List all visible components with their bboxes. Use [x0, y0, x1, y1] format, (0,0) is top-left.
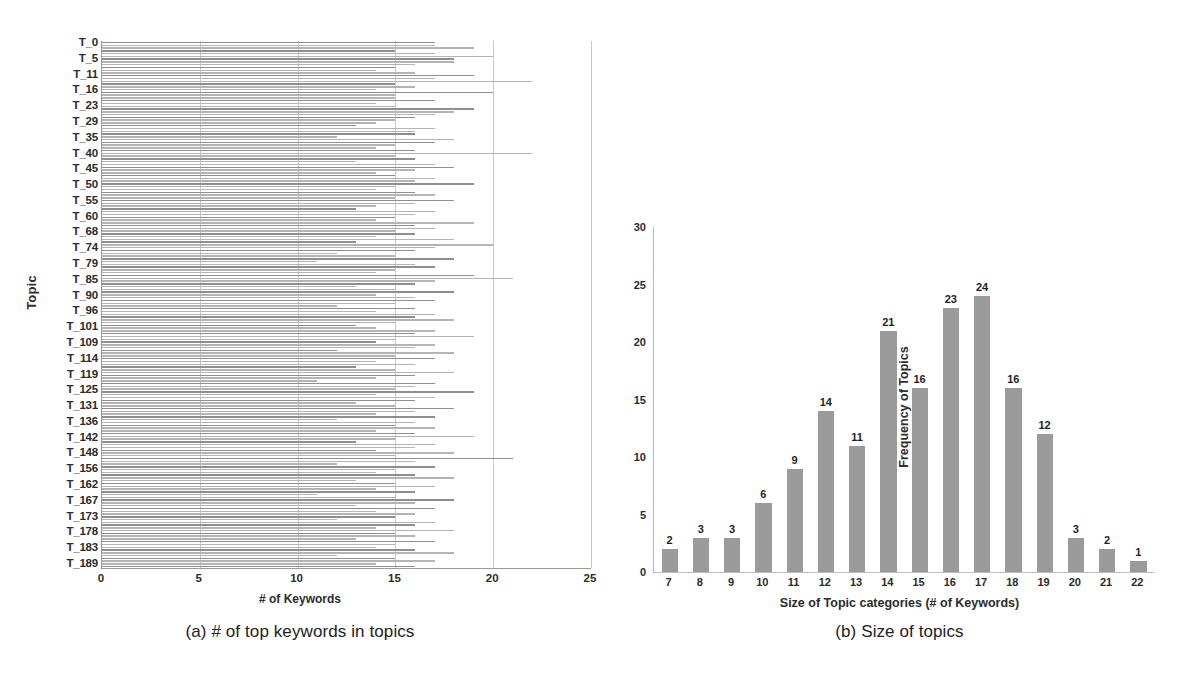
panel-b-y-tick-0: 0: [640, 566, 646, 578]
panel-a-bar: [102, 228, 435, 229]
panel-a-y-tick-t_90: T_90: [73, 290, 98, 300]
panel-a-y-tick-t_55: T_55: [73, 195, 98, 205]
panel-a-y-tick-t_136: T_136: [66, 416, 98, 426]
panel-a-bar: [102, 258, 454, 259]
panel-b-bar-value: 11: [837, 431, 877, 443]
panel-a-bar: [102, 89, 376, 90]
panel-b-bar: [755, 503, 771, 572]
panel-a-bar: [102, 172, 376, 173]
panel-a-bar: [102, 355, 395, 356]
panel-a-bar: [102, 175, 395, 176]
panel-a-bar: [102, 494, 317, 495]
panel-b-x-tick-labels: 78910111213141516171819202122: [653, 576, 1153, 594]
panel-b-x-tick-16: 16: [944, 576, 956, 588]
panel-a-bar: [102, 511, 376, 512]
panel-a-bar: [102, 97, 395, 98]
panel-a-bar: [102, 386, 415, 387]
panel-a-bar: [102, 78, 435, 79]
panel-a-bar: [102, 275, 474, 276]
panel-a-bar: [102, 42, 435, 43]
panel-b-bar-value: 16: [900, 373, 940, 385]
panel-a-bar: [102, 499, 454, 500]
panel-a-bar: [102, 53, 435, 54]
panel-a-bar: [102, 411, 415, 412]
panel-a-bar: [102, 477, 454, 478]
panel-a-bar: [102, 555, 337, 556]
panel-a-y-tick-t_40: T_40: [73, 148, 98, 158]
panel-a-bar: [102, 239, 454, 240]
panel-a-bar: [102, 155, 395, 156]
panel-a-bar: [102, 533, 395, 534]
panel-a-bar: [102, 505, 356, 506]
panel-b-bar: [693, 538, 709, 573]
panel-a-bar: [102, 250, 415, 251]
panel-a-bar: [102, 327, 376, 328]
panel-a-bar: [102, 286, 356, 287]
panel-a-bar: [102, 469, 395, 470]
panel-a-bar: [102, 72, 415, 73]
panel-a-bar: [102, 455, 395, 456]
panel-a-bar: [102, 236, 376, 237]
panel-a-bar: [102, 264, 415, 265]
panel-a-bar: [102, 261, 317, 262]
panel-a-y-tick-t_5: T_5: [79, 53, 98, 63]
panel-b-bar: [662, 549, 678, 572]
panel-a-x-axis-line: [101, 568, 591, 569]
panel-b-bar: [912, 388, 928, 572]
panel-b-bar-value: 9: [775, 454, 815, 466]
panel-a-bar: [102, 458, 513, 459]
panel-a-bar: [102, 183, 474, 184]
panel-a-bar: [102, 217, 395, 218]
panel-b-x-tick-19: 19: [1038, 576, 1050, 588]
panel-a-y-tick-t_101: T_101: [66, 321, 98, 331]
panel-a-bar: [102, 136, 337, 137]
panel-a-bar: [102, 303, 395, 304]
panel-a-bar: [102, 425, 395, 426]
panel-a-bar: [102, 364, 415, 365]
panel-a-bar: [102, 402, 356, 403]
panel-b-bar: [1099, 549, 1115, 572]
panel-a-bar: [102, 344, 435, 345]
panel-b-x-tick-11: 11: [788, 576, 800, 588]
panel-a-bar: [102, 497, 395, 498]
panel-a-bar: [102, 291, 454, 292]
panel-a-bar: [102, 358, 435, 359]
panel-a-bar: [102, 502, 415, 503]
panel-a-bar: [102, 225, 415, 226]
panel-a-y-tick-t_109: T_109: [66, 337, 98, 347]
panel-a-bar: [102, 394, 376, 395]
panel-a-bar: [102, 247, 435, 248]
panel-a-bar: [102, 297, 415, 298]
panel-a-bar: [102, 111, 454, 112]
panel-a-bar: [102, 480, 356, 481]
panel-b-y-tick-30: 30: [634, 221, 646, 233]
panel-a-bar: [102, 180, 415, 181]
panel-a-bar: [102, 408, 454, 409]
panel-a-x-tick-0: 0: [98, 572, 104, 584]
panel-a-bar: [102, 444, 435, 445]
panel-a-y-tick-t_183: T_183: [66, 542, 98, 552]
panel-a-bar: [102, 253, 337, 254]
panel-a-bar: [102, 70, 376, 71]
panel-a-y-tick-labels: T_0T_5T_11T_16T_23T_29T_35T_40T_45T_50T_…: [40, 40, 98, 568]
panel-b-size-of-topics: Frequency of Topics 051015202530 2336914…: [600, 0, 1179, 685]
panel-a-bar: [102, 436, 474, 437]
panel-a-y-tick-t_142: T_142: [66, 432, 98, 442]
panel-a-bar: [102, 233, 415, 234]
panel-a-y-tick-t_0: T_0: [79, 37, 98, 47]
panel-a-y-tick-t_45: T_45: [73, 163, 98, 173]
panel-a-y-tick-t_29: T_29: [73, 116, 98, 126]
panel-a-bar: [102, 106, 395, 107]
panel-a-y-tick-t_148: T_148: [66, 447, 98, 457]
panel-a-bar: [102, 64, 415, 65]
panel-a-gridline: [395, 41, 396, 568]
panel-a-y-tick-t_162: T_162: [66, 479, 98, 489]
panel-b-x-tick-14: 14: [881, 576, 893, 588]
panel-b-bar-value: 6: [743, 488, 783, 500]
panel-a-bar: [102, 383, 435, 384]
panel-b-bar: [943, 308, 959, 573]
panel-a-bar: [102, 530, 454, 531]
panel-a-bar: [102, 563, 376, 564]
panel-a-bar: [102, 186, 395, 187]
panel-a-bar: [102, 347, 415, 348]
